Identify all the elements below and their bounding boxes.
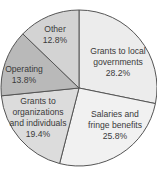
- slice-label-operating: Operating13.8%: [5, 64, 43, 86]
- slice-label-salaries-and-fringe-benefits: Salaries andfringe benefits25.8%: [88, 109, 142, 142]
- slice-label-line: Other: [43, 24, 67, 35]
- slice-value: 28.2%: [90, 68, 145, 79]
- slice-label-other: Other12.8%: [43, 24, 67, 46]
- slice-label-line: organizations: [10, 107, 67, 118]
- slice-label-line: governments: [90, 57, 145, 68]
- slice-label-line: Operating: [5, 64, 43, 75]
- slice-label-grants-to-organizations-and-individuals: Grants toorganizationsand individuals19.…: [10, 96, 67, 140]
- pie-chart: [0, 0, 157, 172]
- slice-label-grants-to-local-governments: Grants to localgovernments28.2%: [90, 46, 145, 79]
- slice-label-line: Salaries and: [88, 109, 142, 120]
- slice-label-line: Grants to: [10, 96, 67, 107]
- slice-label-line: Grants to local: [90, 46, 145, 57]
- slice-value: 25.8%: [88, 131, 142, 142]
- slice-label-line: and individuals: [10, 118, 67, 129]
- slice-value: 12.8%: [43, 35, 67, 46]
- slice-label-line: fringe benefits: [88, 120, 142, 131]
- slice-value: 13.8%: [5, 75, 43, 86]
- slice-value: 19.4%: [10, 129, 67, 140]
